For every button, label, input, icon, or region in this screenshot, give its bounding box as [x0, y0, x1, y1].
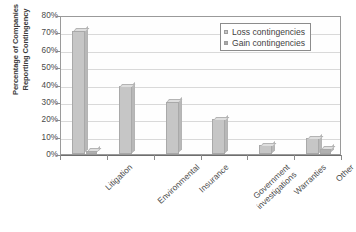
bar-loss: [306, 138, 319, 154]
y-tick-label: 40%: [24, 81, 58, 90]
y-tick-label: 10%: [24, 133, 58, 142]
x-tick-mark: [341, 155, 342, 160]
y-tick-label: 60%: [24, 46, 58, 55]
x-tick-mark: [201, 155, 202, 160]
x-tick-label: Other: [334, 162, 356, 184]
bar-group: [295, 138, 342, 154]
bar-group: [155, 102, 202, 154]
bar-loss: [119, 86, 132, 154]
y-tick-label: 0%: [24, 150, 58, 159]
bar-loss: [212, 119, 225, 154]
bar-side: [132, 82, 135, 152]
bar-top: [120, 84, 135, 87]
x-tick-label: Insurance: [197, 162, 231, 194]
legend-label-gain: Gain contingencies: [232, 38, 305, 48]
x-tick-label: Environmental: [155, 162, 201, 206]
x-tick-label: Governmentinvestigations: [248, 162, 299, 211]
bar-face: [86, 151, 97, 154]
bar-gain: [320, 149, 331, 154]
bar-face: [259, 145, 272, 154]
x-tick-label: Litigation: [103, 162, 134, 192]
x-tick-mark: [60, 155, 61, 160]
bar-group: [108, 86, 155, 154]
bar-top: [88, 148, 101, 151]
legend-item-loss: Loss contingencies: [224, 26, 305, 37]
bar-loss: [72, 31, 85, 154]
x-tick-mark: [294, 155, 295, 160]
y-tick-label: 70%: [24, 28, 58, 37]
x-tick-mark: [107, 155, 108, 160]
bar-face: [166, 102, 179, 154]
legend-item-gain: Gain contingencies: [224, 37, 305, 48]
x-tick-label: Warranties: [292, 162, 328, 197]
bar-top: [261, 143, 276, 146]
bar-face: [320, 149, 331, 154]
bar-top: [322, 146, 335, 149]
y-axis-title-line1: Percentage of Companies: [11, 4, 20, 95]
legend-label-loss: Loss contingencies: [232, 27, 305, 37]
bar-face: [72, 31, 85, 154]
bar-gain: [86, 151, 97, 154]
bar-group: [61, 31, 108, 154]
bar-side: [85, 27, 88, 153]
bar-face: [119, 86, 132, 154]
chart-legend: Loss contingencies Gain contingencies: [220, 23, 311, 51]
bar-group: [248, 145, 295, 154]
bar-side: [225, 115, 228, 152]
bar-loss: [166, 102, 179, 154]
bar-top: [308, 136, 323, 139]
bar-face: [306, 138, 319, 154]
y-tick-label: 20%: [24, 115, 58, 124]
y-tick-label: 80%: [24, 11, 58, 20]
x-tick-mark: [247, 155, 248, 160]
legend-swatch-loss: [224, 30, 228, 34]
bar-top: [74, 28, 89, 31]
bar-group: [202, 119, 249, 154]
y-tick-label: 50%: [24, 63, 58, 72]
x-tick-mark: [154, 155, 155, 160]
bar-side: [179, 98, 182, 152]
bar-top: [214, 117, 229, 120]
bar-loss: [259, 145, 272, 154]
legend-swatch-gain: [224, 41, 228, 45]
y-tick-label: 30%: [24, 98, 58, 107]
bar-face: [212, 119, 225, 154]
